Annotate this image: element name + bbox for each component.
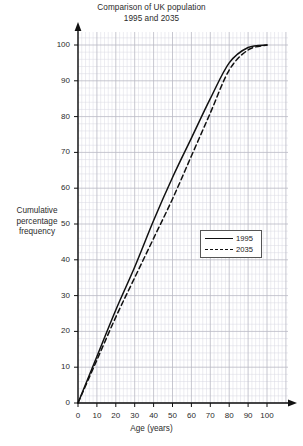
chart-legend: 1995 2035 [200, 230, 262, 258]
grid-major [78, 32, 288, 403]
cumulative-frequency-chart: Comparison of UK population 1995 and 203… [0, 0, 303, 446]
axes [74, 22, 297, 407]
legend-swatch-dashed-icon [205, 249, 233, 250]
plot-area [0, 0, 303, 446]
legend-item-1995: 1995 [205, 233, 260, 244]
legend-label-2035: 2035 [236, 244, 253, 255]
legend-swatch-solid-icon [205, 238, 233, 239]
grid-minor [78, 32, 288, 403]
legend-label-1995: 1995 [236, 233, 253, 244]
legend-item-2035: 2035 [205, 244, 260, 255]
